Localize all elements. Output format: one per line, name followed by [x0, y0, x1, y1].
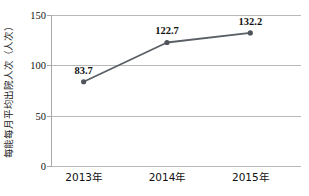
data-label-2014: 122.7 — [144, 26, 190, 37]
x-tick-label-2014: 2014年 — [137, 172, 197, 183]
x-tick-label-2015: 2015年 — [220, 172, 280, 183]
series-marker-2013 — [81, 79, 86, 84]
x-tick-label-2013: 2013年 — [54, 172, 114, 183]
series-marker-2015 — [248, 30, 253, 35]
line-chart-figure: 每能每月平均出院人次（人次） 150 100 50 0 83.7 122.7 1… — [0, 0, 309, 196]
data-label-2015: 132.2 — [227, 17, 273, 28]
series-marker-2014 — [164, 40, 169, 45]
data-label-2013: 83.7 — [61, 66, 107, 77]
